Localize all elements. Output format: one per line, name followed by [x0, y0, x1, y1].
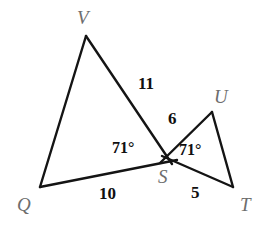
vertex-label-q: Q	[17, 195, 31, 214]
vertex-label-u: U	[214, 87, 228, 106]
side-label-qs: 10	[99, 185, 116, 202]
side-label-st: 5	[191, 184, 200, 201]
vertex-label-t: T	[240, 195, 251, 214]
segment-UT	[212, 112, 233, 187]
side-label-su: 6	[168, 110, 177, 127]
side-label-vs: 11	[138, 75, 154, 92]
angle-label-qsv: 71°	[112, 140, 134, 156]
segment-group	[40, 36, 233, 187]
vertex-label-v: V	[77, 8, 89, 27]
geometry-diagram-svg	[0, 0, 271, 228]
segment-QS	[40, 160, 177, 187]
geometry-figure: V Q S U T 11 6 10 5 71° 71°	[0, 0, 271, 228]
angle-label-ust: 71°	[179, 142, 201, 158]
vertex-label-s: S	[158, 167, 168, 186]
segment-QV	[40, 36, 86, 187]
